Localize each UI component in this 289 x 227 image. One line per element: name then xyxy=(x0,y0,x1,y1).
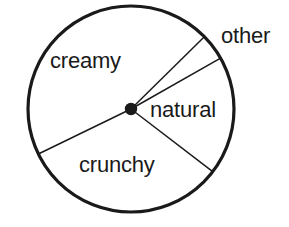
pie-slice-label-crunchy: crunchy xyxy=(79,154,155,176)
pie-slice-label-other: other xyxy=(221,25,270,47)
pie-chart: creamy other natural crunchy xyxy=(0,0,289,227)
pie-slice-label-creamy: creamy xyxy=(50,50,121,72)
pie-center-dot xyxy=(125,103,137,115)
pie-slice-label-natural: natural xyxy=(150,99,216,121)
